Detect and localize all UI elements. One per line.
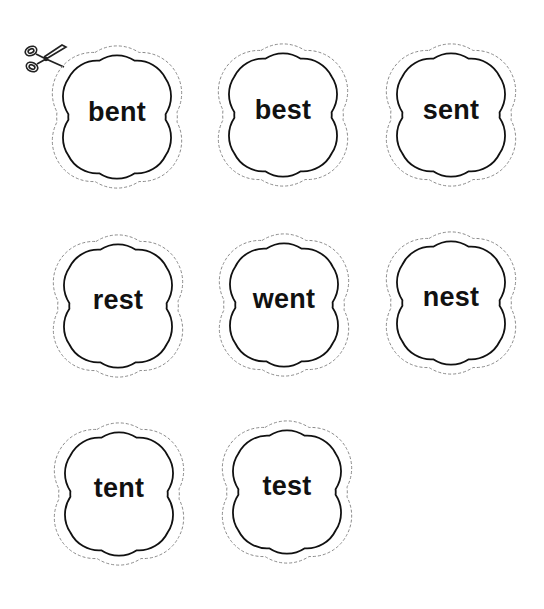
word-card: bent	[37, 32, 197, 202]
card-word: nest	[371, 282, 531, 313]
word-card: tent	[39, 409, 199, 579]
card-word: test	[207, 471, 367, 502]
word-card: test	[207, 407, 367, 577]
word-card: rest	[38, 221, 198, 391]
card-word: bent	[37, 97, 197, 128]
word-card-sheet: bent best sent rest went nest te	[0, 0, 544, 609]
card-word: best	[203, 95, 363, 126]
word-card: went	[204, 220, 364, 390]
word-card: best	[203, 30, 363, 200]
word-card: sent	[371, 30, 531, 200]
card-word: sent	[371, 95, 531, 126]
word-card: nest	[371, 218, 531, 388]
card-word: went	[204, 284, 364, 315]
card-word: rest	[38, 285, 198, 316]
card-word: tent	[39, 473, 199, 504]
